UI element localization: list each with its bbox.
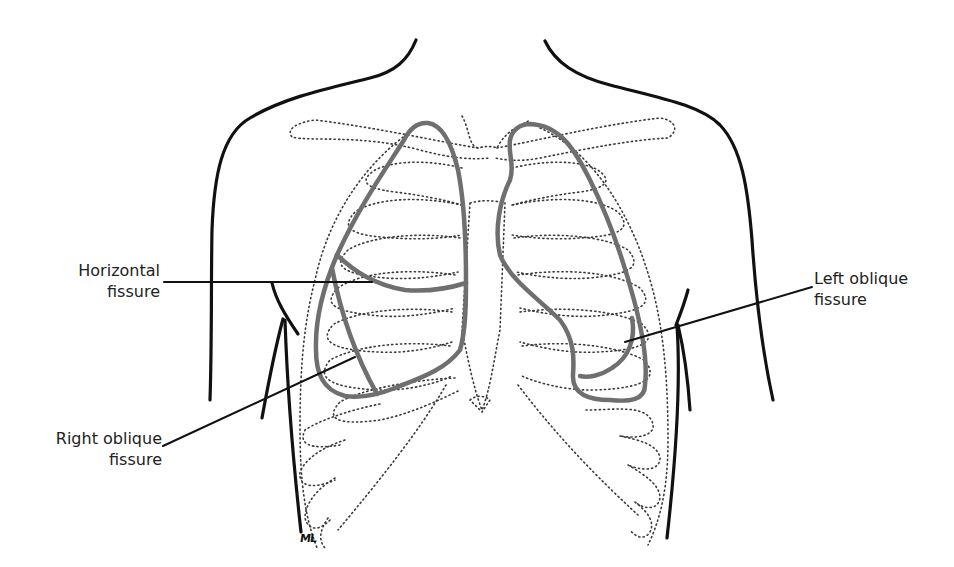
left-rib-outer-contour	[540, 128, 668, 545]
right-rib-7	[333, 378, 460, 422]
left-rib-7	[586, 409, 653, 437]
right-oblique-fissure-leader	[163, 357, 355, 446]
label-left-oblique-fissure-line2: fissure	[814, 289, 954, 310]
body-outline	[210, 40, 773, 538]
label-right-oblique-fissure-line1: Right oblique	[20, 428, 162, 449]
right-axilla-outline	[676, 290, 688, 325]
left-rib-9	[628, 465, 660, 508]
left-rib-8	[620, 436, 660, 469]
left-trunk-outline-inner	[285, 320, 301, 532]
label-horizontal-fissure-line1: Horizontal	[60, 260, 160, 281]
left-rib-6	[522, 344, 650, 390]
label-left-oblique-fissure: Left obliquе fissure	[814, 268, 954, 310]
leader-lines	[163, 282, 812, 446]
right-rib-2	[348, 200, 462, 239]
left-oblique-fissure-leader	[625, 287, 812, 342]
label-right-oblique-fissure-line2: fissure	[20, 449, 162, 470]
horizontal-fissure	[337, 255, 466, 291]
left-rib-10	[630, 502, 652, 537]
lungs	[316, 123, 646, 401]
right-trunk-outline-inner	[667, 326, 678, 538]
right-rib-1	[366, 162, 462, 205]
right-rib-8	[303, 404, 380, 447]
right-rib-6	[324, 344, 452, 390]
right-shoulder-outline	[545, 41, 773, 400]
label-horizontal-fissure-line2: fissure	[60, 281, 160, 302]
left-costal-margin	[518, 385, 638, 515]
right-clavicle	[290, 120, 490, 159]
right-costal-margin	[338, 385, 446, 530]
label-right-oblique-fissure: Right oblique fissure	[20, 428, 162, 470]
artist-signature: ML	[299, 532, 317, 545]
left-shoulder-outline	[210, 40, 416, 400]
label-horizontal-fissure: Horizontal fissure	[60, 260, 160, 302]
left-trunk-outline-outer	[262, 319, 283, 418]
label-left-oblique-fissure-line1: Left obliquе	[814, 268, 954, 289]
